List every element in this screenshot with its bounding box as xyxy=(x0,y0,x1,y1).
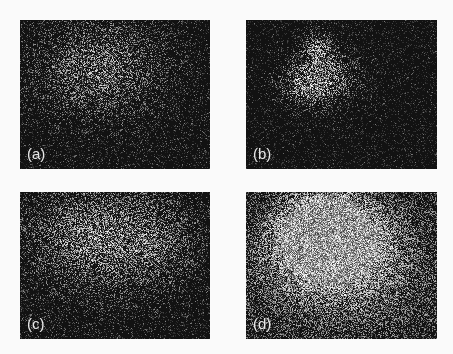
panel-d-label: (d) xyxy=(253,316,271,331)
panel-b-image xyxy=(246,20,437,169)
panel-a-image xyxy=(20,20,210,169)
panel-d-image xyxy=(246,192,437,339)
panel-a: (a) xyxy=(20,20,210,169)
panel-a-label: (a) xyxy=(27,146,45,161)
panel-b: (b) xyxy=(246,20,437,169)
panel-c-image xyxy=(20,192,210,339)
panel-b-label: (b) xyxy=(253,146,271,161)
panel-c-label: (c) xyxy=(27,316,45,331)
panel-c: (c) xyxy=(20,192,210,339)
panel-d: (d) xyxy=(246,192,437,339)
